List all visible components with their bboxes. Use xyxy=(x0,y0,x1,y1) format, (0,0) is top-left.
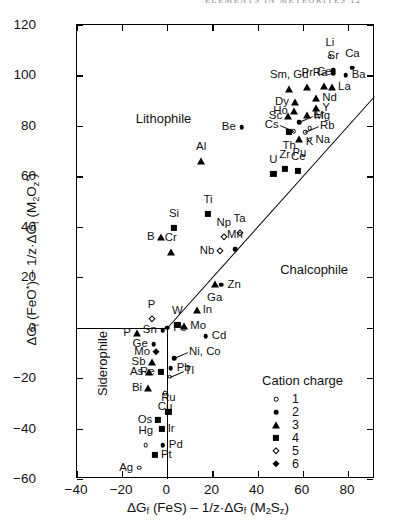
data-point-Nb-5 xyxy=(217,247,224,254)
x-tick-label: −40 xyxy=(51,482,101,497)
point-label-Nb: Nb xyxy=(200,245,215,256)
data-point-La-3 xyxy=(328,83,336,90)
point-label-Mn: Mn xyxy=(227,229,243,240)
y-tick xyxy=(367,277,373,278)
y-tick xyxy=(77,227,83,228)
data-point-Mo-6 xyxy=(152,348,160,356)
filled-diamond-icon xyxy=(272,460,280,468)
x-tick xyxy=(212,471,213,477)
data-point-Fe-2 xyxy=(165,325,170,330)
y-tick xyxy=(367,227,373,228)
x-tick xyxy=(348,471,349,477)
y-tick xyxy=(367,328,373,329)
point-label-Si: Si xyxy=(169,208,179,219)
point-label-Be: Be xyxy=(222,121,236,132)
data-point-Ge-2 xyxy=(151,342,156,347)
data-point-Mn-2 xyxy=(233,247,238,252)
legend: Cation charge 123456 xyxy=(262,373,343,471)
y-tick xyxy=(367,176,373,177)
x-tick-label: 20 xyxy=(186,482,236,497)
y-tick xyxy=(77,277,83,278)
point-label-Bi: Bi xyxy=(132,382,142,393)
point-label-Tl: Tl xyxy=(185,365,195,376)
point-label-Ba: Ba xyxy=(352,70,366,81)
legend-entries: 123456 xyxy=(262,393,343,471)
data-point-Ag-1 xyxy=(137,465,142,470)
data-point-Ir-4 xyxy=(159,425,165,431)
x-tick-label: −20 xyxy=(96,482,146,497)
data-point-Pd-2 xyxy=(160,443,165,448)
data-point-Cr-3 xyxy=(167,249,175,256)
point-label-Sn: Sn xyxy=(143,324,157,335)
filled-circle-icon xyxy=(274,410,279,415)
point-label-P: P xyxy=(123,327,131,338)
open-circle-icon xyxy=(274,397,279,402)
data-point-SmGd-3 xyxy=(285,86,293,93)
data-point-U-4 xyxy=(270,171,276,177)
data-point-Be-2 xyxy=(240,125,245,130)
legend-label: 2 xyxy=(292,405,299,419)
y-tick xyxy=(77,75,83,76)
point-label-Cs: Cs xyxy=(265,119,279,130)
legend-entry-4: 4 xyxy=(262,432,343,445)
data-point-Zn-2 xyxy=(219,282,224,287)
point-label-Sr: Sr xyxy=(328,50,339,61)
data-point-P-3 xyxy=(133,329,141,336)
y-tick xyxy=(77,429,83,430)
x-axis-title: ΔGf (FeS) – 1/z·ΔGf (M2Sz) xyxy=(0,500,416,516)
data-point-Ga-3 xyxy=(211,280,219,287)
data-point-Hg-1 xyxy=(144,443,149,448)
point-label-Li: Li xyxy=(325,36,334,47)
data-point-In-3 xyxy=(193,307,201,314)
x-tick xyxy=(303,25,304,31)
data-point-Pb-2 xyxy=(168,366,173,371)
legend-label: 1 xyxy=(292,392,299,406)
point-label-P: P xyxy=(148,298,156,309)
x-tick-label: 40 xyxy=(232,482,282,497)
plot-area: LithophileChalcophileSiderophile LiSrRaC… xyxy=(76,24,374,478)
data-point-Nd-3 xyxy=(312,95,320,102)
region-label-lithophile: Lithophile xyxy=(136,111,192,126)
x-tick xyxy=(167,471,168,477)
legend-entry-2: 2 xyxy=(262,406,343,419)
x-tick xyxy=(258,25,259,31)
data-point-Ti-4 xyxy=(205,211,211,217)
data-point-Pr-3 xyxy=(303,83,311,90)
y-tick xyxy=(77,378,83,379)
point-label-La: La xyxy=(338,81,351,92)
y-tick xyxy=(367,126,373,127)
data-point-Sc-3 xyxy=(284,112,292,119)
x-tick-label: 0 xyxy=(141,482,191,497)
data-point-Ru-4 xyxy=(165,409,171,415)
x-tick-label: 60 xyxy=(277,482,327,497)
point-label-Cd: Cd xyxy=(212,331,227,342)
data-point-P-5 xyxy=(148,315,155,322)
data-point-Ra-2 xyxy=(331,71,336,76)
y-tick xyxy=(367,25,373,26)
point-label-Ru: Ru xyxy=(161,392,176,403)
legend-label: 4 xyxy=(292,431,299,445)
y-tick xyxy=(367,479,373,480)
y-tick xyxy=(77,126,83,127)
data-point-Dy-3 xyxy=(291,98,299,105)
point-label-Cr: Cr xyxy=(165,232,177,243)
point-label-Ag: Ag xyxy=(119,462,133,473)
point-label-NiCo: Ni, Co xyxy=(189,346,221,357)
point-label-Zr: Zr xyxy=(279,148,290,159)
x-tick xyxy=(167,25,168,31)
data-point-Sn-2 xyxy=(160,328,165,333)
point-label-Zn: Zn xyxy=(227,279,240,290)
point-label-In: In xyxy=(203,304,213,315)
legend-label: 6 xyxy=(292,457,299,471)
y-tick xyxy=(77,328,83,329)
y-tick-label: −40 xyxy=(0,420,36,435)
scatter-chart-figure: LithophileChalcophileSiderophile LiSrRaC… xyxy=(0,0,416,525)
x-tick-label: 80 xyxy=(322,482,372,497)
legend-entry-5: 5 xyxy=(262,445,343,458)
point-label-B: B xyxy=(147,231,155,242)
data-point-Bi-3 xyxy=(144,385,152,392)
lithophile-chalcophile-divider xyxy=(167,96,376,329)
point-label-Pr: Pr xyxy=(302,66,313,77)
data-point-Os-4 xyxy=(155,417,161,423)
legend-label: 5 xyxy=(292,444,299,458)
